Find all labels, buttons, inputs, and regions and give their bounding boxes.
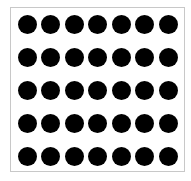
dot (88, 81, 107, 100)
dot (135, 81, 154, 100)
dot (112, 147, 131, 166)
dot (65, 48, 84, 67)
dot (88, 15, 107, 34)
dot (18, 147, 37, 166)
dot (41, 147, 60, 166)
dot (159, 81, 178, 100)
dot (18, 81, 37, 100)
dot (41, 15, 60, 34)
dot (88, 147, 107, 166)
dot (65, 15, 84, 34)
dot (65, 114, 84, 133)
dot (159, 15, 178, 34)
dot (18, 114, 37, 133)
dot (88, 48, 107, 67)
dot (18, 48, 37, 67)
dot (112, 81, 131, 100)
dot (41, 81, 60, 100)
dot (41, 114, 60, 133)
dot (65, 147, 84, 166)
dot (112, 114, 131, 133)
dot (135, 48, 154, 67)
dot (112, 48, 131, 67)
dot (41, 48, 60, 67)
dot (65, 81, 84, 100)
dot (18, 15, 37, 34)
dot (159, 114, 178, 133)
dot (159, 48, 178, 67)
dot (135, 114, 154, 133)
dot (159, 147, 178, 166)
dot-array-frame (10, 7, 185, 172)
dot (112, 15, 131, 34)
dot (88, 114, 107, 133)
dot (135, 15, 154, 34)
dot (135, 147, 154, 166)
